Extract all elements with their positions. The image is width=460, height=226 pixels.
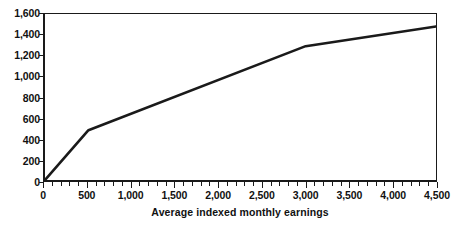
line-series-svg [45,14,436,180]
x-axis-tick-mark-minor [236,182,237,186]
x-axis-tick-mark-minor [297,182,298,186]
y-axis-tick-label: 0 [2,177,40,188]
x-axis-tick-marks [43,182,437,189]
x-axis-tick-mark-minor [271,182,272,186]
y-axis-tick-label: 1,400 [2,29,40,40]
x-axis-tick-mark-minor [419,182,420,186]
x-axis-tick-mark-minor [341,182,342,186]
chart-container: 02004006008001,0001,2001,4001,600 05001,… [0,0,460,226]
x-axis-tick-mark-major [87,182,88,188]
x-axis-tick-mark-minor [104,182,105,186]
x-axis-tick-mark-minor [367,182,368,186]
x-axis-tick-mark-minor [52,182,53,186]
x-axis-tick-label: 4,500 [407,190,460,202]
x-axis-tick-mark-minor [139,182,140,186]
x-axis-tick-mark-minor [314,182,315,186]
x-axis-tick-mark-minor [244,182,245,186]
series-polyline [45,26,436,180]
x-axis-tick-mark-major [262,182,263,188]
x-axis-tick-mark-minor [323,182,324,186]
x-axis-tick-mark-minor [96,182,97,186]
x-axis-tick-mark-minor [78,182,79,186]
x-axis-tick-mark-minor [411,182,412,186]
y-axis-tick-label: 400 [2,135,40,146]
y-axis-tick-label: 1,600 [2,8,40,19]
y-axis-tick-label: 200 [2,156,40,167]
x-axis-tick-mark-minor [384,182,385,186]
x-axis-tick-mark-minor [192,182,193,186]
y-axis-tick-label: 800 [2,92,40,103]
x-axis-tick-mark-minor [209,182,210,186]
x-axis-tick-mark-major [306,182,307,188]
x-axis-tick-mark-major [349,182,350,188]
y-axis-tick-label: 600 [2,113,40,124]
x-axis-tick-mark-minor [157,182,158,186]
x-axis-tick-mark-minor [166,182,167,186]
y-axis-tick-label: 1,200 [2,50,40,61]
x-axis-tick-mark-minor [288,182,289,186]
x-axis-tick-mark-major [218,182,219,188]
x-axis-tick-mark-minor [402,182,403,186]
x-axis-tick-mark-minor [122,182,123,186]
x-axis-tick-mark-minor [201,182,202,186]
x-axis-tick-mark-minor [428,182,429,186]
x-axis-tick-mark-minor [148,182,149,186]
y-axis-tick-labels: 02004006008001,0001,2001,4001,600 [0,13,40,182]
x-axis-tick-mark-minor [227,182,228,186]
x-axis-tick-mark-major [437,182,438,188]
x-axis-tick-mark-minor [113,182,114,186]
x-axis-tick-mark-major [43,182,44,188]
x-axis-tick-mark-major [174,182,175,188]
x-axis-title: Average indexed monthly earnings [43,206,437,218]
x-axis-tick-mark-minor [253,182,254,186]
x-axis-tick-mark-minor [279,182,280,186]
x-axis-tick-mark-minor [61,182,62,186]
x-axis-tick-mark-minor [358,182,359,186]
x-axis-tick-mark-major [131,182,132,188]
y-axis-tick-label: 1,000 [2,71,40,82]
x-axis-tick-mark-minor [69,182,70,186]
x-axis-tick-mark-minor [332,182,333,186]
x-axis-tick-mark-minor [183,182,184,186]
x-axis-tick-labels: 05001,0001,5002,0002,5003,0003,5004,0004… [0,190,460,204]
plot-area [43,13,437,182]
x-axis-tick-mark-minor [376,182,377,186]
x-axis-tick-mark-major [393,182,394,188]
